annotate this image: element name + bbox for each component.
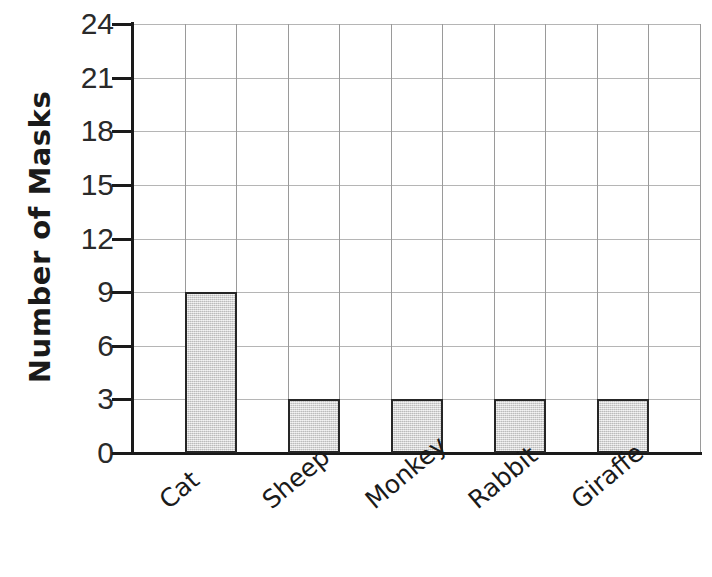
- y-tick-label: 18: [46, 116, 114, 146]
- y-axis-tick-labels: 03691215182124: [46, 0, 114, 577]
- gridline-horizontal: [133, 24, 700, 25]
- y-tick-mark: [112, 77, 134, 80]
- gridline-horizontal: [133, 239, 700, 240]
- gridline-horizontal: [133, 78, 700, 79]
- y-tick-mark: [112, 345, 134, 348]
- bar-chart: Number of Masks 03691215182124 CatSheepM…: [0, 0, 712, 577]
- y-tick-label: 21: [46, 63, 114, 93]
- y-tick-mark: [112, 238, 134, 241]
- y-tick-mark: [112, 452, 134, 455]
- gridline-vertical: [648, 24, 649, 453]
- y-tick-label: 24: [46, 9, 114, 39]
- gridline-vertical: [545, 24, 546, 453]
- y-tick-label: 12: [46, 224, 114, 254]
- x-tick-label-cat: Cat: [154, 465, 205, 515]
- gridline-vertical: [700, 24, 701, 453]
- gridline-horizontal: [133, 131, 700, 132]
- y-tick-mark: [112, 184, 134, 187]
- gridline-vertical: [442, 24, 443, 453]
- gridline-vertical: [597, 24, 598, 453]
- y-tick-label: 6: [46, 331, 114, 361]
- y-tick-mark: [112, 398, 134, 401]
- bar-cat: [185, 292, 237, 453]
- y-tick-label: 9: [46, 277, 114, 307]
- y-tick-label: 15: [46, 170, 114, 200]
- y-tick-mark: [112, 130, 134, 133]
- y-tick-mark: [112, 23, 134, 26]
- gridline-vertical: [494, 24, 495, 453]
- gridline-vertical: [339, 24, 340, 453]
- y-tick-label: 0: [46, 438, 114, 468]
- y-tick-label: 3: [46, 384, 114, 414]
- gridline-horizontal: [133, 185, 700, 186]
- gridline-vertical: [391, 24, 392, 453]
- y-tick-mark: [112, 291, 134, 294]
- gridline-vertical: [288, 24, 289, 453]
